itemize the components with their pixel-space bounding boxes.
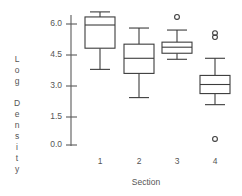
y-axis-title-char-1: o (15, 65, 20, 75)
box-group-1 (85, 12, 115, 69)
y-tick-label-4: 0.0 (50, 139, 62, 149)
x-tick-label-3: 3 (175, 156, 180, 166)
y-axis-title: L o g D e n s i t y (14, 54, 20, 174)
x-axis-tick-labels: 1 2 3 4 (98, 156, 218, 166)
box-group-3 (162, 15, 192, 60)
box-group-4 (200, 31, 230, 142)
outlier-3-0 (175, 15, 180, 20)
y-axis-title-char-6: n (15, 120, 20, 130)
x-tick-label-1: 1 (98, 156, 103, 166)
y-axis-title-char-9: t (16, 153, 19, 163)
box-group-2 (124, 28, 154, 98)
x-axis-title: Section (132, 177, 161, 187)
y-tick-label-3: 1.5 (50, 111, 62, 121)
y-tick-label-1: 4.5 (50, 49, 62, 59)
y-axis-title-char-8: i (16, 142, 18, 152)
y-axis-title-char-10: y (15, 164, 20, 174)
box-iqr-1 (85, 17, 115, 48)
y-axis-tick-labels: 6.0 4.5 3.0 1.5 0.0 (50, 18, 62, 149)
y-axis-title-char-5: e (15, 109, 20, 119)
y-axis-title-char-0: L (15, 54, 20, 64)
outlier-4-2 (213, 137, 218, 142)
y-tick-label-2: 3.0 (50, 80, 62, 90)
x-tick-label-4: 4 (213, 156, 218, 166)
boxplot-figure: 6.0 4.5 3.0 1.5 0.0 L o g D e n s i t y … (0, 0, 242, 196)
y-axis-title-char-2: g (15, 76, 20, 86)
y-tick-label-0: 6.0 (50, 18, 62, 28)
y-axis-title-char-7: s (15, 131, 19, 141)
boxplot-svg: 6.0 4.5 3.0 1.5 0.0 L o g D e n s i t y … (0, 0, 242, 196)
y-axis-title-char-4: D (14, 98, 20, 108)
box-glyph-layer (85, 12, 230, 141)
x-tick-label-2: 2 (137, 156, 142, 166)
